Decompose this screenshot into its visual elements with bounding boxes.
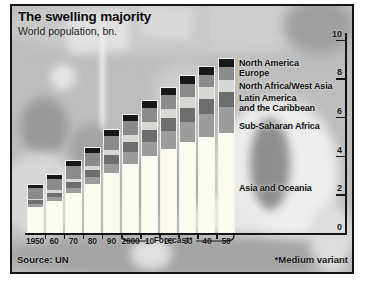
segment-sub-saharan-africa xyxy=(161,131,176,149)
y-tick-label: 0 xyxy=(337,222,342,232)
segment-latin-america-and-the-caribbean xyxy=(199,99,214,113)
legend-item-north-africa-west-asia: North Africa/West Asia xyxy=(239,81,332,91)
segment-asia-and-oceania xyxy=(66,193,81,233)
segment-sub-saharan-africa xyxy=(219,107,234,133)
segment-europe xyxy=(161,95,176,109)
segment-north-africa-west-asia xyxy=(219,80,234,93)
y-axis-line xyxy=(345,33,347,235)
y-tick xyxy=(336,156,345,158)
segment-sub-saharan-africa xyxy=(142,142,157,157)
y-tick-label: 2 xyxy=(337,183,342,193)
segment-north-africa-west-asia xyxy=(142,122,157,130)
bar-80 xyxy=(85,148,100,233)
x-tick-label-50: 50 xyxy=(211,236,241,246)
segment-europe xyxy=(66,166,81,179)
segment-north-america xyxy=(142,101,157,108)
legend-item-north-america: North America xyxy=(239,58,299,68)
segment-north-africa-west-asia xyxy=(123,135,138,142)
bar-70 xyxy=(66,161,81,233)
bar-20 xyxy=(161,88,176,233)
segment-north-africa-west-asia xyxy=(161,109,176,119)
segment-europe xyxy=(28,188,43,199)
segment-sub-saharan-africa xyxy=(123,152,138,164)
segment-north-america xyxy=(161,88,176,95)
segment-north-africa-west-asia xyxy=(199,87,214,99)
source-label: Source: UN xyxy=(17,254,69,265)
bar-2000 xyxy=(123,115,138,233)
chart-frame: 1086420 19506070809020001020304050 Asia … xyxy=(10,4,354,274)
segment-latin-america-and-the-caribbean xyxy=(104,155,119,164)
bar-1950 xyxy=(28,185,43,233)
legend-item-sub-saharan-africa: Sub-Saharan Africa xyxy=(239,121,320,131)
bar-90 xyxy=(104,130,119,233)
y-tick xyxy=(336,117,345,119)
segment-latin-america-and-the-caribbean xyxy=(85,170,100,177)
infographic: 1086420 19506070809020001020304050 Asia … xyxy=(0,0,365,284)
segment-sub-saharan-africa xyxy=(199,114,214,138)
plot-area: 1086420 19506070809020001020304050 Asia … xyxy=(12,6,352,272)
bar-60 xyxy=(47,175,62,233)
y-tick xyxy=(336,78,345,80)
segment-asia-and-oceania xyxy=(161,149,176,233)
chart-subtitle: World population, bn. xyxy=(18,25,117,37)
segment-latin-america-and-the-caribbean xyxy=(123,142,138,152)
segment-europe xyxy=(219,67,234,79)
segment-north-america xyxy=(199,67,214,75)
legend-item-asia-and-oceania: Asia and Oceania xyxy=(239,183,312,193)
segment-latin-america-and-the-caribbean xyxy=(142,130,157,141)
segment-europe xyxy=(85,153,100,166)
segment-north-africa-west-asia xyxy=(180,97,195,108)
segment-asia-and-oceania xyxy=(123,164,138,233)
segment-asia-and-oceania xyxy=(142,156,157,233)
segment-europe xyxy=(123,121,138,135)
chart-title: The swelling majority xyxy=(18,9,151,24)
y-tick-label: 10 xyxy=(332,29,342,39)
segment-asia-and-oceania xyxy=(104,173,119,233)
segment-latin-america-and-the-caribbean xyxy=(180,108,195,122)
bar-40 xyxy=(199,67,214,233)
segment-europe xyxy=(104,136,119,150)
segment-asia-and-oceania xyxy=(85,184,100,233)
segment-asia-and-oceania xyxy=(28,207,43,233)
y-tick-label: 8 xyxy=(337,67,342,77)
segment-europe xyxy=(47,179,62,191)
footnote: *Medium variant xyxy=(275,254,348,265)
segment-europe xyxy=(199,75,214,88)
segment-asia-and-oceania xyxy=(219,133,234,233)
bar-10 xyxy=(142,101,157,233)
y-tick-label: 4 xyxy=(337,145,342,155)
segment-asia-and-oceania xyxy=(47,201,62,233)
segment-sub-saharan-africa xyxy=(180,122,195,143)
segment-europe xyxy=(142,108,157,122)
y-tick-label: 6 xyxy=(337,106,342,116)
bar-50 xyxy=(219,59,234,233)
segment-latin-america-and-the-caribbean xyxy=(219,92,234,107)
legend-item-latin-america-and-the-caribbean: Latin America and the Caribbean xyxy=(239,92,315,113)
segment-sub-saharan-africa xyxy=(85,177,100,184)
segment-asia-and-oceania xyxy=(199,137,214,233)
segment-sub-saharan-africa xyxy=(104,164,119,173)
y-tick xyxy=(336,194,345,196)
segment-north-america xyxy=(180,76,195,84)
bar-30 xyxy=(180,76,195,233)
segment-latin-america-and-the-caribbean xyxy=(161,118,176,131)
forecast-label: Forecast* xyxy=(142,235,204,245)
segment-asia-and-oceania xyxy=(180,142,195,233)
legend-item-europe: Europe xyxy=(239,68,269,78)
y-tick xyxy=(336,40,345,42)
segment-north-america xyxy=(219,59,234,68)
segment-europe xyxy=(180,84,195,97)
